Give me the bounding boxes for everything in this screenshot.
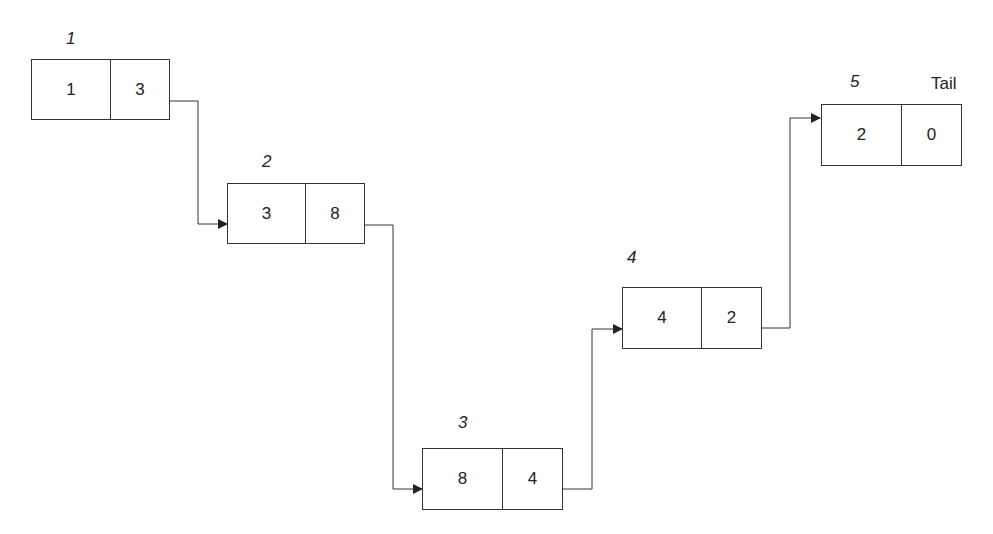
node-next-cell: 2: [702, 288, 761, 348]
node-next-cell: 3: [111, 60, 169, 119]
node-next-cell: 4: [503, 449, 562, 509]
node-index-label: 2: [262, 152, 271, 172]
list-node: 2 0: [821, 104, 962, 166]
node-data-cell: 8: [423, 449, 503, 509]
node-data-cell: 1: [32, 60, 111, 119]
node-index-label: 5: [850, 72, 859, 92]
link-1-to-2: [169, 101, 227, 224]
link-2-to-3: [364, 225, 422, 489]
tail-label: Tail: [931, 74, 957, 94]
node-next-cell: 8: [306, 184, 364, 243]
node-data-cell: 4: [623, 288, 702, 348]
node-data-cell: 2: [822, 105, 902, 165]
list-node: 8 4: [422, 448, 563, 510]
node-index-label: 1: [66, 29, 75, 49]
list-node: 1 3: [31, 59, 170, 120]
node-index-label: 4: [627, 248, 636, 268]
link-4-to-5: [761, 118, 820, 328]
node-index-label: 3: [458, 413, 467, 433]
list-node: 4 2: [622, 287, 762, 349]
list-node: 3 8: [227, 183, 365, 244]
node-next-cell: 0: [902, 105, 961, 165]
link-3-to-4: [562, 329, 622, 489]
node-data-cell: 3: [228, 184, 306, 243]
